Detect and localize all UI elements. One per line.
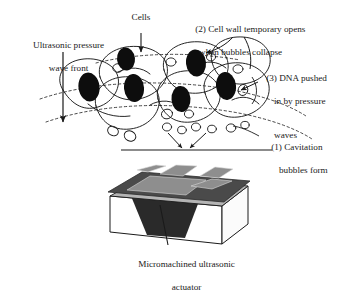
micromachined-ultrasonic-actuator bbox=[108, 165, 250, 245]
step1-leader-line bbox=[233, 126, 259, 136]
bubble-source-arrows bbox=[168, 133, 206, 148]
label-step1-cavitation-bubbles: (1) Cavitation bubbles form bbox=[262, 131, 364, 199]
label-actuator-caption: Micromachined ultrasonic actuator bbox=[72, 248, 292, 294]
label-cells: Cells bbox=[120, 12, 162, 23]
label-wave-front: Ultrasonic pressure wave front bbox=[4, 29, 124, 86]
